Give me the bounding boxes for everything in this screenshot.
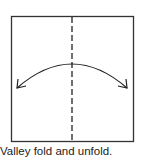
origami-diagram bbox=[0, 0, 142, 145]
instruction-caption: Valley fold and unfold. bbox=[0, 145, 142, 157]
